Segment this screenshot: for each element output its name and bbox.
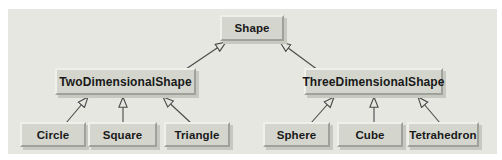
- node-three-dimensional-shape: ThreeDimensionalShape: [304, 68, 443, 95]
- inheritance-diagram: Shape TwoDimensionalShape ThreeDimension…: [0, 0, 502, 160]
- node-shape: Shape: [220, 15, 284, 41]
- node-tetrahedron: Tetrahedron: [407, 122, 479, 147]
- node-square: Square: [88, 122, 157, 147]
- node-triangle: Triangle: [164, 122, 230, 147]
- node-circle: Circle: [20, 122, 86, 147]
- node-two-dimensional-shape: TwoDimensionalShape: [55, 68, 196, 95]
- node-cube: Cube: [337, 122, 403, 147]
- node-sphere: Sphere: [263, 122, 330, 147]
